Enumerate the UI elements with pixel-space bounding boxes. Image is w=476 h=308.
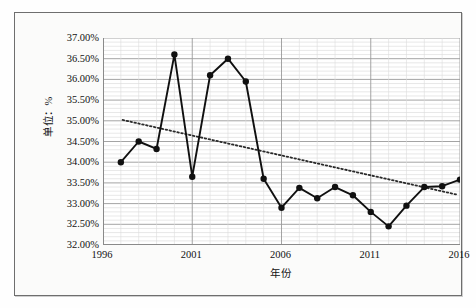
x-axis-tick-label: 2001 <box>161 249 221 260</box>
chart-screenshot: 37.00%36.50%36.00%35.50%35.00%34.50%34.0… <box>0 0 476 308</box>
data-series-layer <box>103 38 460 245</box>
x-axis-tick-label: 2016 <box>429 249 476 260</box>
plot-area <box>103 38 460 245</box>
y-axis-tick-label: 34.00% <box>37 157 99 167</box>
y-axis-tick-label: 36.50% <box>37 54 99 64</box>
x-axis-tick-label: 2011 <box>340 249 400 260</box>
x-axis-tick-label: 2006 <box>251 249 311 260</box>
x-axis-title: 年份 <box>251 265 311 280</box>
y-axis-tick-label: 33.50% <box>37 178 99 188</box>
y-axis-tick-label: 37.00% <box>37 33 99 43</box>
y-axis-title: 单位：% <box>40 79 55 155</box>
x-axis-tick-label: 1996 <box>72 249 132 260</box>
y-axis-tick-label: 32.50% <box>37 219 99 229</box>
chart-panel: 37.00%36.50%36.00%35.50%35.00%34.50%34.0… <box>14 12 462 296</box>
y-axis-tick-label: 33.00% <box>37 199 99 209</box>
